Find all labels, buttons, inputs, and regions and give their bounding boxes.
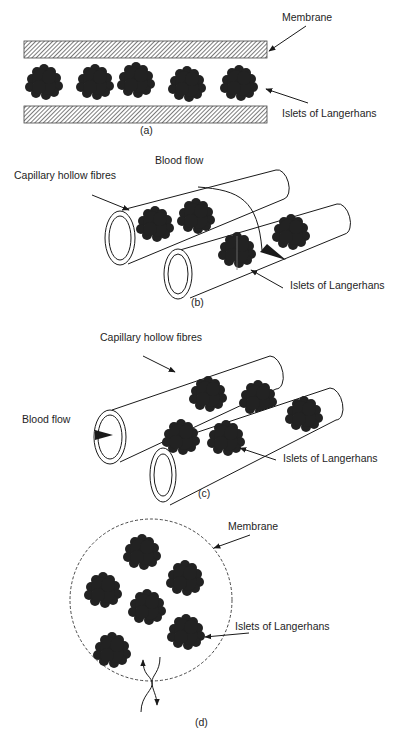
membrane-arrow-a bbox=[269, 26, 306, 51]
caption-a: (a) bbox=[140, 125, 153, 136]
caption-b: (b) bbox=[191, 297, 204, 308]
membrane-label-a: Membrane bbox=[282, 12, 332, 23]
fibres-arrow-b bbox=[92, 195, 129, 210]
panel-a bbox=[24, 26, 308, 123]
membrane-top bbox=[24, 41, 267, 58]
panel-c bbox=[94, 356, 343, 505]
fibres-label-b: Capillary hollow fibres bbox=[14, 170, 116, 181]
islets-label-c: Islets of Langerhans bbox=[283, 453, 378, 464]
fibres-label-c: Capillary hollow fibres bbox=[100, 332, 202, 343]
islets-arrow-d bbox=[205, 633, 249, 637]
membrane-bottom bbox=[24, 106, 267, 123]
membrane-label-d: Membrane bbox=[228, 521, 278, 532]
islets-label-d: Islets of Langerhans bbox=[235, 621, 330, 632]
panel-d bbox=[70, 519, 250, 712]
islets-arrow-b bbox=[251, 270, 283, 288]
blood-flow-label-b: Blood flow bbox=[155, 155, 203, 166]
islets-label-a: Islets of Langerhans bbox=[282, 108, 377, 119]
islets-label-b: Islets of Langerhans bbox=[290, 280, 385, 291]
blood-flow-label-c: Blood flow bbox=[22, 414, 70, 425]
islets-arrow-a bbox=[266, 89, 308, 103]
caption-d: (d) bbox=[195, 717, 208, 728]
islets-d bbox=[84, 534, 205, 668]
membrane-arrow-d bbox=[214, 535, 250, 548]
fibres-arrow-c bbox=[143, 356, 175, 372]
exchange-arrow-in bbox=[141, 660, 152, 712]
islets-a bbox=[25, 62, 258, 102]
caption-c: (c) bbox=[198, 488, 210, 499]
